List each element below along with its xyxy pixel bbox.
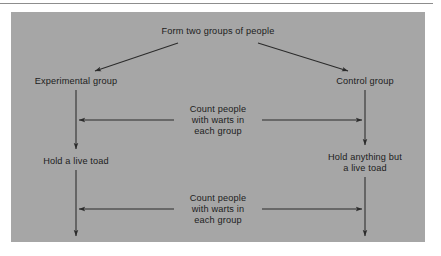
edge-root-to-experimental [95, 43, 178, 71]
diagram-panel: Form two groups of people Experimental g… [11, 12, 425, 242]
top-horizontal-rule [0, 3, 433, 4]
annotation-second-line1: Count people [190, 193, 246, 203]
annotation-first-line3: each group [194, 126, 241, 136]
node-control-group-label: Control group [336, 76, 394, 86]
annotation-second-line2: with warts in [191, 204, 245, 214]
annotation-second-line3: each group [194, 215, 241, 225]
node-experimental-group-label: Experimental group [35, 76, 117, 86]
node-hold-anything-label-line2: a live toad [343, 163, 387, 173]
node-root-label: Form two groups of people [161, 26, 274, 36]
edge-root-to-control [258, 43, 348, 71]
node-hold-anything-label-line1: Hold anything but [328, 152, 402, 162]
annotation-first-line2: with warts in [191, 115, 245, 125]
annotation-first-line1: Count people [190, 104, 246, 114]
figure-root: Form two groups of people Experimental g… [0, 0, 441, 256]
node-hold-live-toad-label: Hold a live toad [43, 156, 109, 166]
flowchart-svg: Form two groups of people Experimental g… [11, 12, 425, 242]
